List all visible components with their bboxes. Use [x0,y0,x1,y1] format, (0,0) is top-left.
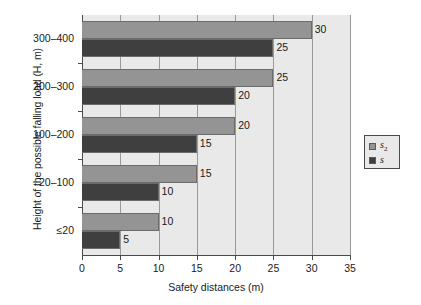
x-tick-mark [312,256,313,260]
x-axis-line [82,255,351,256]
bar-s-0 [82,39,273,57]
bar-s2-1 [82,69,273,87]
bar-value-label: 25 [276,71,288,83]
gridline [312,15,313,255]
y-tick-label: 300–400 [33,32,74,44]
x-axis-title: Safety distances (m) [82,281,350,293]
bar-s2-2 [82,117,235,135]
x-tick-label: 35 [335,262,365,274]
y-tick-mark [78,111,82,112]
gridline [273,15,274,255]
x-tick-label: 5 [105,262,135,274]
y-tick-mark [78,63,82,64]
bar-value-label: 15 [200,167,212,179]
x-tick-mark [273,256,274,260]
legend-item-s: s [369,154,399,166]
bar-value-label: 25 [276,41,288,53]
bar-s-2 [82,135,197,153]
bar-value-label: 15 [200,137,212,149]
bar-value-label: 10 [162,185,174,197]
bar-value-label: 20 [238,89,250,101]
x-tick-label: 0 [67,262,97,274]
bar-s2-3 [82,165,197,183]
bar-chart: Height of the possible falling load (H, … [0,0,421,305]
bar-s-3 [82,183,159,201]
x-tick-label: 30 [297,262,327,274]
bar-value-label: 10 [162,215,174,227]
x-tick-mark [197,256,198,260]
bar-value-label: 20 [238,119,250,131]
legend-label-s: s [380,155,384,165]
legend-item-s2: s2 [369,140,399,152]
y-tick-label: 20–100 [39,176,74,188]
bar-value-label: 30 [315,23,327,35]
x-tick-label: 20 [220,262,250,274]
y-tick-mark [78,207,82,208]
x-tick-mark [120,256,121,260]
x-tick-mark [350,256,351,260]
bar-s2-4 [82,213,159,231]
bar-s2-0 [82,21,312,39]
y-tick-label: 100–200 [33,128,74,140]
legend-label-s2: s2 [380,140,387,153]
bar-value-label: 5 [123,233,129,245]
x-tick-label: 25 [258,262,288,274]
bar-s-1 [82,87,235,105]
legend: s2 s [364,135,400,169]
y-tick-label: ≤20 [57,224,74,236]
legend-swatch-s-icon [369,157,376,164]
legend-swatch-s2-icon [369,143,376,150]
y-tick-label: 200–300 [33,80,74,92]
x-tick-mark [235,256,236,260]
y-tick-mark [78,159,82,160]
x-tick-mark [82,256,83,260]
x-tick-label: 15 [182,262,212,274]
gridline [350,15,351,255]
x-tick-mark [159,256,160,260]
x-tick-label: 10 [144,262,174,274]
bar-s-4 [82,231,120,249]
